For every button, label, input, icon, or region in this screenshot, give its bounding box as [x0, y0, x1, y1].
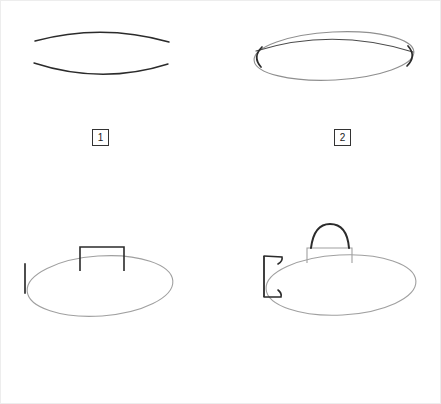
- hull-ellipse-icon: [265, 251, 418, 319]
- step-label-2-text: 2: [340, 133, 346, 143]
- tutorial-step-panel-3: 3: [1, 201, 221, 404]
- hull-bottom-arc-icon: [34, 63, 168, 74]
- step-label-2: 2: [334, 129, 351, 146]
- step-label-1: 1: [92, 129, 109, 146]
- step-label-1-text: 1: [98, 133, 104, 143]
- conning-tower-dome-icon: [311, 224, 349, 248]
- hull-ellipse-icon: [25, 251, 175, 321]
- tutorial-step-panel-1: 1: [1, 1, 221, 201]
- tutorial-step-panel-2: 2: [221, 1, 441, 201]
- tutorial-step-panel-4: 4: [221, 201, 441, 404]
- step-3-illustration: [1, 201, 221, 404]
- hull-right-cap-icon: [407, 46, 412, 66]
- drawing-tutorial-canvas: 1 2 3: [0, 0, 441, 404]
- stern-upper-strut-icon: [264, 256, 282, 264]
- hull-top-arc-icon: [35, 32, 169, 42]
- step-2-illustration: [221, 1, 441, 201]
- conning-tower-rectangle-icon: [80, 247, 124, 271]
- step-1-illustration: [1, 1, 221, 201]
- hull-ellipse-icon: [253, 28, 415, 84]
- step-4-illustration: [221, 201, 441, 404]
